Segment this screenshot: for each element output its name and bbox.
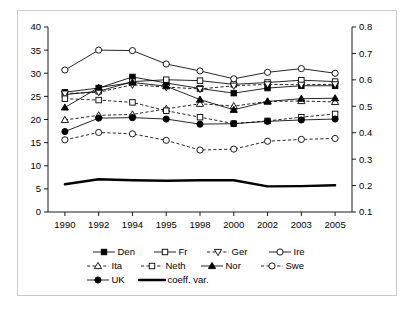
left-axis-tick-label: 0 <box>36 206 41 217</box>
series-fr-marker <box>197 78 203 84</box>
right-axis-tick-label: 0.4 <box>359 127 372 138</box>
left-axis-tick-label: 15 <box>30 137 41 148</box>
series-ire-marker <box>62 67 68 73</box>
x-axis-tick-label: 1990 <box>54 219 75 230</box>
series-swe-marker <box>298 136 304 142</box>
legend-ita-marker <box>94 262 101 268</box>
left-axis-tick-label: 25 <box>30 91 41 102</box>
series-uk-marker <box>264 118 270 124</box>
x-axis-tick-label: 2000 <box>223 219 244 230</box>
legend-ire-marker <box>277 249 283 255</box>
series-nor-marker <box>332 95 339 101</box>
series-neth-marker <box>163 108 169 114</box>
series-swe-marker <box>332 135 338 141</box>
legend-den-marker <box>101 249 107 255</box>
x-axis-tick-label: 1998 <box>189 219 210 230</box>
x-axis-tick-label: 1992 <box>88 219 109 230</box>
legend-label-fr: Fr <box>179 246 188 257</box>
x-axis-tick-label: 2005 <box>325 219 346 230</box>
series-line-coeffvar <box>65 179 335 186</box>
series-ire-marker <box>264 69 270 75</box>
legend-label-neth: Neth <box>166 260 186 271</box>
series-den-marker <box>231 90 237 96</box>
left-axis-tick-label: 30 <box>30 68 41 79</box>
series-swe-marker <box>96 129 102 135</box>
left-axis-tick-label: 40 <box>30 21 41 32</box>
series-nor-marker <box>61 104 68 110</box>
right-axis-tick-label: 0.3 <box>359 154 372 165</box>
right-axis-tick-label: 0.2 <box>359 180 372 191</box>
legend-fr-marker <box>162 249 168 255</box>
series-uk-marker <box>197 121 203 127</box>
series-nor-marker <box>298 95 305 101</box>
series-swe-marker <box>62 137 68 143</box>
right-axis-tick-label: 0.7 <box>359 48 372 59</box>
series-fr-marker <box>163 77 169 83</box>
legend-label-coeffvar: coeff. var. <box>168 274 209 285</box>
series-neth-marker <box>130 100 136 106</box>
left-axis-tick-label: 10 <box>30 160 41 171</box>
chart-canvas: 05101520253035400.10.20.30.40.50.60.70.8… <box>0 0 417 314</box>
series-ire-marker <box>231 76 237 82</box>
series-ire-marker <box>332 70 338 76</box>
series-swe-marker <box>197 147 203 153</box>
series-swe-marker <box>163 137 169 143</box>
legend-label-ire: Ire <box>294 246 305 257</box>
series-neth-marker <box>62 96 67 102</box>
legend-uk-marker <box>95 277 101 283</box>
series-uk-marker <box>62 128 68 134</box>
x-axis-tick-label: 1994 <box>122 219 143 230</box>
left-axis-tick-label: 5 <box>36 183 41 194</box>
legend-swe-marker <box>269 263 275 269</box>
legend-label-den: Den <box>118 246 135 257</box>
series-line-ire <box>65 50 335 79</box>
series-swe-marker <box>129 131 135 137</box>
left-axis-tick-label: 35 <box>30 45 41 56</box>
legend-label-swe: Swe <box>286 260 304 271</box>
series-ire-marker <box>163 61 169 67</box>
series-uk-marker <box>298 117 304 123</box>
legend-nor-marker <box>208 262 215 268</box>
right-axis-tick-label: 0.6 <box>359 74 372 85</box>
legend-label-ita: Ita <box>112 260 123 271</box>
legend-ger-marker <box>214 249 221 255</box>
right-axis-tick-label: 0.5 <box>359 101 372 112</box>
legend-label-ger: Ger <box>232 246 248 257</box>
series-uk-marker <box>231 121 237 127</box>
legend-neth-marker <box>149 263 155 269</box>
right-axis-tick-label: 0.1 <box>359 206 372 217</box>
series-ire-marker <box>96 47 102 53</box>
series-ire-marker <box>298 66 304 72</box>
series-uk-marker <box>163 116 169 122</box>
series-swe-marker <box>231 146 237 152</box>
series-swe-marker <box>264 138 270 144</box>
series-uk-marker <box>332 116 338 122</box>
series-ire-marker <box>197 68 203 74</box>
series-uk-marker <box>129 115 135 121</box>
legend-label-nor: Nor <box>226 260 241 271</box>
line-chart: 05101520253035400.10.20.30.40.50.60.70.8… <box>0 0 417 314</box>
left-axis-tick-label: 20 <box>30 114 41 125</box>
x-axis-tick-label: 2003 <box>291 219 312 230</box>
x-axis-tick-label: 2002 <box>257 219 278 230</box>
series-uk-marker <box>96 115 102 121</box>
series-neth-marker <box>197 114 203 120</box>
legend-label-uk: UK <box>112 274 126 285</box>
right-axis-tick-label: 0.8 <box>359 21 372 32</box>
series-neth-marker <box>96 97 102 103</box>
series-ire-marker <box>129 47 135 53</box>
x-axis-tick-label: 1995 <box>156 219 177 230</box>
series-nor-marker <box>196 96 203 102</box>
